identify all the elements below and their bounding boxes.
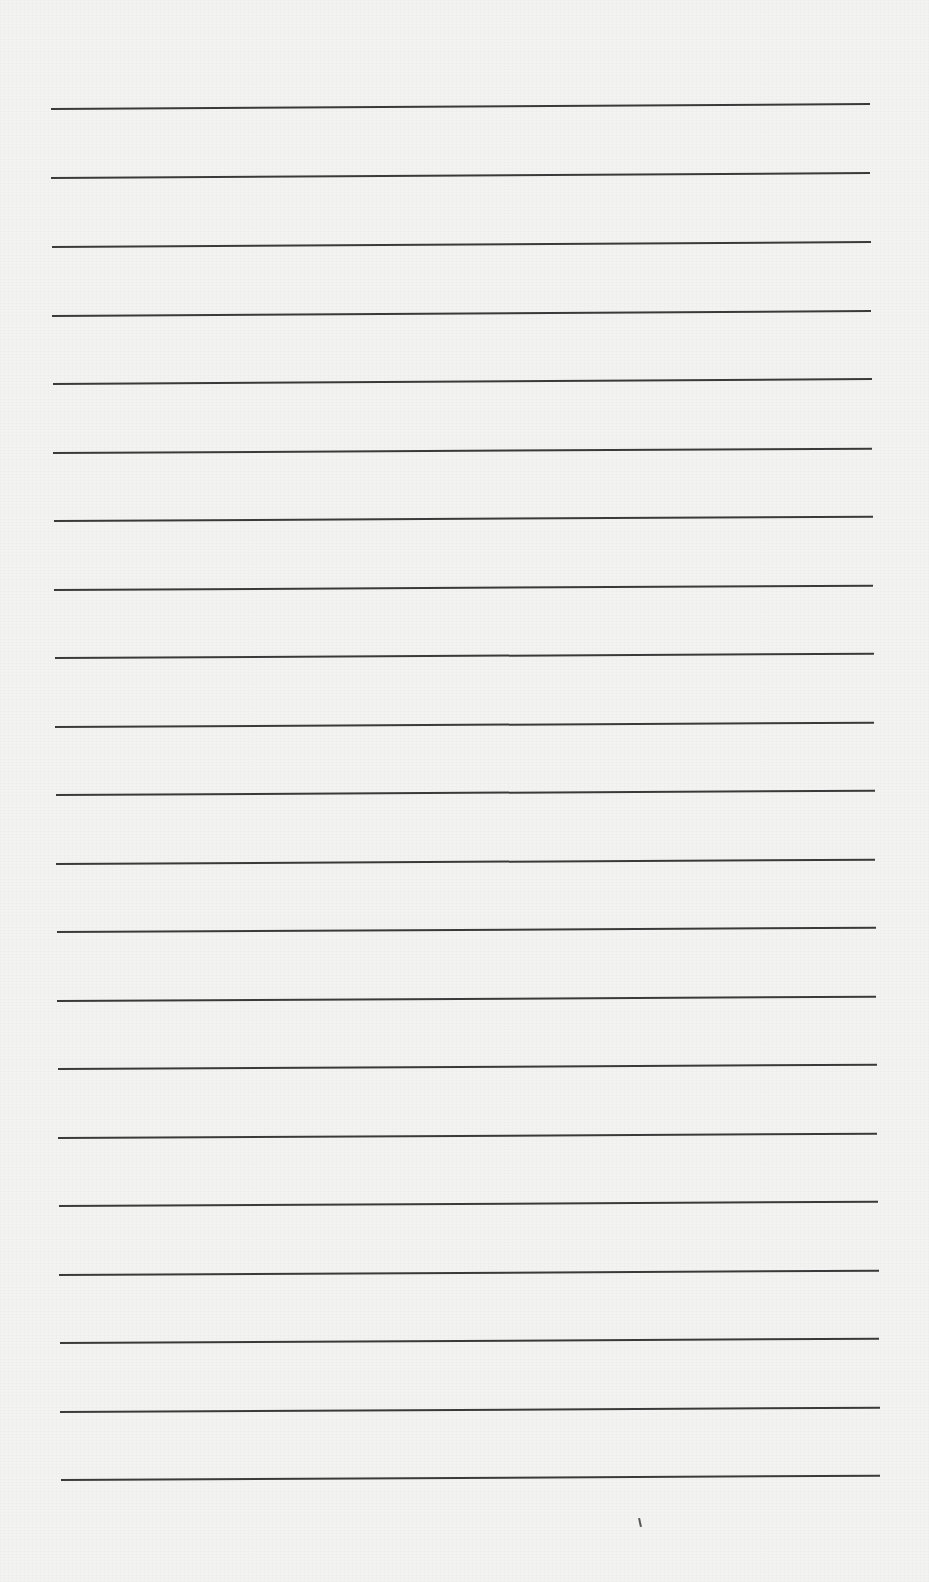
ruled-line — [54, 585, 873, 591]
ruled-line — [53, 378, 872, 385]
ruled-line — [57, 927, 876, 933]
ruled-line — [58, 1133, 877, 1139]
ruled-line — [55, 722, 874, 728]
ruled-line — [52, 241, 871, 248]
ruled-line — [58, 1064, 877, 1070]
ruled-line — [59, 1270, 879, 1276]
ruled-line — [54, 516, 873, 522]
stray-pen-mark — [638, 1518, 642, 1527]
ruled-line — [52, 310, 871, 317]
ruled-line — [61, 1475, 880, 1481]
ruled-line — [53, 448, 872, 454]
ruled-line — [60, 1407, 880, 1413]
ruled-line — [51, 172, 870, 179]
ruled-paper-page — [0, 0, 929, 1582]
ruled-line — [60, 1338, 879, 1344]
ruled-line — [51, 103, 870, 110]
ruled-line — [55, 653, 874, 659]
ruled-line — [56, 859, 875, 865]
ruled-line — [56, 790, 875, 796]
ruled-line — [57, 996, 876, 1002]
ruled-line — [59, 1201, 878, 1207]
